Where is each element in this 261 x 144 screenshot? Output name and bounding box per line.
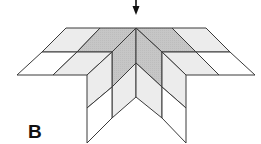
figure-label: B (28, 122, 42, 142)
down-arrow-icon (133, 0, 140, 15)
tiling-cells (17, 28, 255, 143)
